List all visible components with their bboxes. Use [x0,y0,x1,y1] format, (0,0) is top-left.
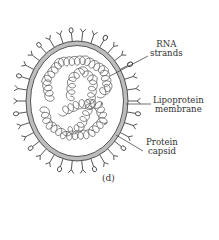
label-protein-capsid: Protein capsid [146,138,178,156]
figure-caption: (d) [102,173,115,183]
label-line: membrane [153,105,204,114]
label-line: strands [150,49,183,58]
protein-capsid [31,46,124,157]
label-lipoprotein-membrane: Lipoprotein membrane [153,96,204,114]
label-line: capsid [146,147,178,156]
label-rna-strands: RNA strands [150,40,183,58]
